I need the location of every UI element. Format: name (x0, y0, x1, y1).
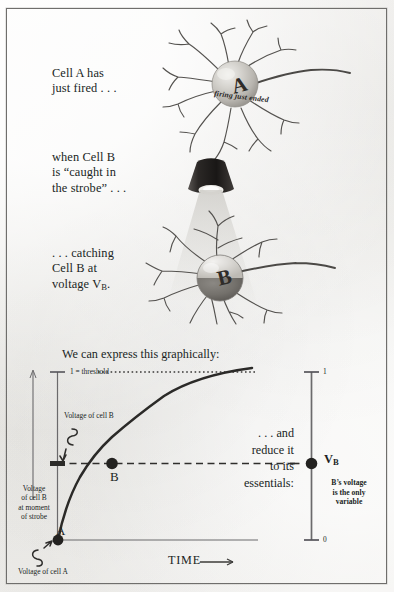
vb-marker (306, 458, 318, 470)
annotation-arrow-cell-a (33, 541, 52, 566)
essentials-line: . . . and (222, 425, 294, 442)
annotation-reduce-to-essentials: . . . and reduce it to its essentials: (222, 425, 294, 491)
essentials-axis-caption: B’s voltage is the only variable (312, 478, 386, 507)
vb-label-subscript: B (333, 457, 339, 467)
vb-marker-label: VB (324, 452, 339, 467)
y-axis-label-line: of strobe (6, 512, 62, 521)
essentials-tick-label-0: 0 (323, 535, 327, 544)
vb-level-marker (50, 461, 65, 466)
point-a-label: A (56, 523, 65, 538)
y-axis-label-line: Voltage (6, 484, 62, 493)
voltage-axis-arrow (30, 370, 36, 500)
point-b-label: B (110, 469, 119, 484)
y-axis-label: Voltage of cell B at moment of strobe (6, 484, 62, 522)
essentials-caption-line: is the only (312, 488, 386, 498)
point-b-marker (106, 458, 118, 470)
essentials-caption-line: variable (312, 497, 386, 507)
annotation-voltage-of-cell-b: Voltage of cell B (64, 411, 114, 420)
essentials-line: to its (222, 458, 294, 475)
essentials-caption-line: B’s voltage (312, 478, 386, 488)
essentials-line: essentials: (222, 475, 294, 492)
y-axis-label-line: of cell B (6, 493, 62, 502)
threshold-label: 1 = threshold (70, 367, 109, 376)
x-axis-label: TIME (168, 553, 201, 568)
y-axis-label-line: at moment (6, 503, 62, 512)
annotation-arrow-cell-b (60, 429, 77, 461)
essentials-line: reduce it (222, 442, 294, 459)
time-axis-arrow (200, 559, 233, 565)
vb-label-text: V (324, 452, 333, 466)
figure-page: Cell A has just fired . . . when Cell B … (0, 0, 394, 592)
annotation-voltage-of-cell-a: Voltage of cell A (18, 567, 118, 576)
essentials-tick-label-1: 1 (323, 367, 327, 376)
